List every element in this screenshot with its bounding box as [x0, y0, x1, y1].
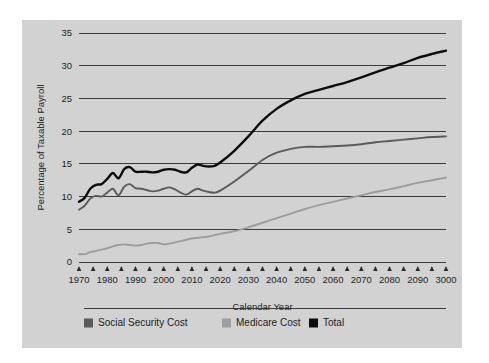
x-axis-tick-label: 3000 [435, 274, 456, 285]
x-axis-title: Calendar Year [232, 301, 292, 312]
x-axis-tick-marker [345, 266, 350, 271]
legend-label: Social Security Cost [98, 317, 188, 328]
x-axis-tick-marker [176, 266, 181, 271]
x-axis-tick-marker [373, 266, 378, 271]
x-axis-tick-marker [190, 266, 195, 271]
x-axis-tick-label: 1970 [68, 274, 89, 285]
x-axis-tick-marker [246, 266, 251, 271]
y-axis-tick-label: 25 [61, 93, 72, 104]
x-axis-tick-labels: 1970198019902000201020202030204020502060… [68, 274, 456, 285]
series-lines [79, 51, 446, 255]
legend-swatch [222, 319, 231, 328]
legend-label: Total [323, 317, 344, 328]
x-axis-tick-marker [444, 266, 449, 271]
x-axis-tick-label: 2020 [210, 274, 231, 285]
x-axis-tick-marker [232, 266, 237, 271]
y-axis-tick-label: 35 [61, 27, 72, 38]
x-axis-tick-label: 1990 [125, 274, 146, 285]
legend-swatch [309, 319, 318, 328]
x-axis-tick-marker [430, 266, 435, 271]
x-axis-tick-marker [274, 266, 279, 271]
chart-page: 05101520253035 1970198019902000201020202… [0, 0, 489, 363]
x-axis-tick-label: 2030 [238, 274, 259, 285]
x-axis-tick-marker [401, 266, 406, 271]
x-axis-tick-marker [204, 266, 209, 271]
x-axis-tick-marker [133, 266, 138, 271]
y-axis-tick-labels: 05101520253035 [61, 27, 72, 267]
y-axis-title: Percentage of Taxable Payroll [35, 84, 46, 210]
y-axis-tick-label: 0 [67, 256, 72, 267]
x-axis-tick-label: 2060 [323, 274, 344, 285]
x-axis-tick-label: 2090 [407, 274, 428, 285]
y-axis-tick-label: 20 [61, 126, 72, 137]
x-axis-tick-marker [119, 266, 124, 271]
x-axis-tick-label: 2010 [181, 274, 202, 285]
x-axis-tick-label: 2050 [294, 274, 315, 285]
series-line-social-security-cost [79, 136, 446, 209]
x-axis-tick-marker [288, 266, 293, 271]
x-axis-tick-marker [317, 266, 322, 271]
x-axis-tick-marks [77, 266, 449, 271]
x-axis-tick-label: 2080 [379, 274, 400, 285]
x-axis-tick-marker [91, 266, 96, 271]
y-axis-tick-label: 30 [61, 60, 72, 71]
y-axis-tick-label: 15 [61, 158, 72, 169]
x-axis-tick-marker [218, 266, 223, 271]
x-axis-tick-marker [105, 266, 110, 271]
x-axis-tick-marker [77, 266, 82, 271]
series-line-medicare-cost [79, 178, 446, 255]
x-axis-tick-label: 2040 [266, 274, 287, 285]
x-axis-tick-marker [415, 266, 420, 271]
series-line-total [79, 51, 446, 202]
x-axis-tick-label: 2070 [351, 274, 372, 285]
x-axis-tick-marker [303, 266, 308, 271]
legend-swatch [84, 319, 93, 328]
x-axis-tick-marker [387, 266, 392, 271]
x-axis-tick-marker [359, 266, 364, 271]
figure-panel: 05101520253035 1970198019902000201020202… [22, 20, 462, 348]
legend: Social Security CostMedicare CostTotal [84, 317, 344, 328]
y-axis-tick-label: 10 [61, 191, 72, 202]
y-axis-tick-label: 5 [67, 224, 72, 235]
x-axis-tick-marker [147, 266, 152, 271]
cost-projection-chart: 05101520253035 1970198019902000201020202… [22, 20, 462, 348]
x-axis-tick-marker [161, 266, 166, 271]
x-axis-tick-label: 2000 [153, 274, 174, 285]
x-axis-tick-marker [260, 266, 265, 271]
x-axis-tick-label: 1980 [97, 274, 118, 285]
legend-label: Medicare Cost [236, 317, 301, 328]
x-axis-tick-marker [331, 266, 336, 271]
